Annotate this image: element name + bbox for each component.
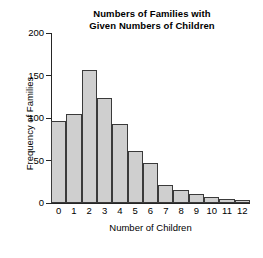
x-axis-label: Number of Children <box>51 222 250 233</box>
chart-title-line-2: Given Numbers of Children <box>52 20 252 32</box>
y-tick-label: 0 <box>0 198 44 208</box>
y-tick-label: 100 <box>0 113 44 123</box>
bar <box>128 151 143 203</box>
bar <box>189 194 204 203</box>
bar <box>143 163 158 203</box>
y-tick-label-wrap: 200 <box>0 28 44 38</box>
y-axis-label: Frequency of Families <box>24 44 35 204</box>
y-tick-label-wrap: 0 <box>0 198 44 208</box>
y-tick-label-wrap: 100 <box>0 113 44 123</box>
bar <box>97 98 112 203</box>
y-tick-label-wrap: 50 <box>0 156 44 166</box>
plot-area <box>51 33 250 203</box>
bar <box>219 199 234 203</box>
bar <box>82 70 97 203</box>
x-axis-line <box>51 203 250 204</box>
bar <box>158 185 173 203</box>
chart-title: Numbers of Families with Given Numbers o… <box>52 8 252 32</box>
y-tick-label: 200 <box>0 28 44 38</box>
x-tick-label: 12 <box>230 206 254 216</box>
histogram-figure: Numbers of Families with Given Numbers o… <box>0 0 263 258</box>
y-tick-label: 50 <box>0 156 44 166</box>
bar <box>204 197 219 203</box>
bar <box>235 200 250 203</box>
bar <box>173 190 188 203</box>
chart-title-line-1: Numbers of Families with <box>52 8 252 20</box>
y-tick-label-wrap: 150 <box>0 71 44 81</box>
bar <box>112 124 127 203</box>
bar <box>66 114 81 203</box>
y-tick-label: 150 <box>0 71 44 81</box>
bar <box>51 121 66 203</box>
